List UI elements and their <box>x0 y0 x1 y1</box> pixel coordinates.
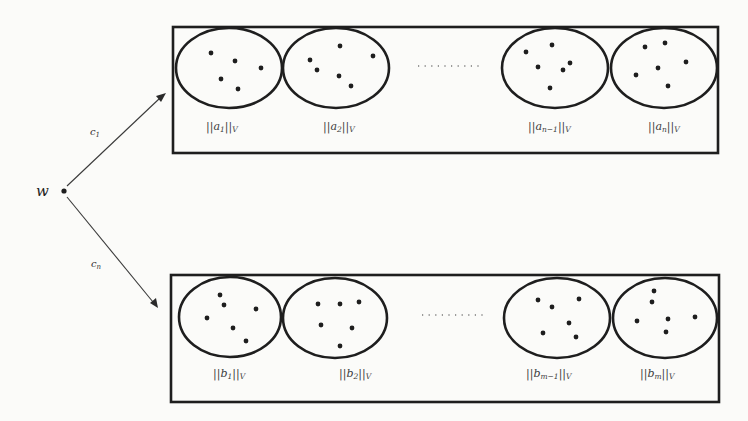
set-a1-circle <box>176 28 282 108</box>
set-b2-label: ||b2||V <box>339 367 373 381</box>
set-a-n-minus-1-label: ||an−1||V <box>528 120 572 134</box>
set-a1-label: ||a1||V <box>206 120 239 134</box>
top-box: ||a1||V ||a2||V ||an−1||V <box>173 27 718 153</box>
set-b-m-minus-1-label: ||bm−1||V <box>526 367 573 381</box>
set-b1: ||b1||V <box>179 277 281 381</box>
set-a-n-circle <box>611 28 717 108</box>
set-a1: ||a1||V <box>176 28 282 134</box>
set-b1-circle <box>179 277 281 357</box>
edge-c1-line <box>67 98 160 186</box>
set-a2-label: ||a2||V <box>323 120 356 134</box>
set-a2: ||a2||V <box>283 28 389 134</box>
source-point <box>61 188 66 193</box>
set-a-n: ||an||V <box>611 28 717 134</box>
edge-c1: c1 <box>67 93 166 186</box>
edge-c1-label: c1 <box>90 126 100 139</box>
set-a-n-minus-1-circle <box>502 28 608 108</box>
edge-cn: cn <box>67 197 158 308</box>
set-a-n-minus-1: ||an−1||V <box>502 28 608 134</box>
set-b2: ||b2||V <box>283 278 387 381</box>
set-b-m: ||bm||V <box>613 278 717 381</box>
top-box-frame <box>173 27 718 153</box>
edge-cn-label: cn <box>91 258 102 271</box>
sets-diagram: w c1 cn ||a1||V <box>0 0 748 421</box>
set-b-m-minus-1-circle <box>504 278 610 358</box>
set-b1-label: ||b1||V <box>213 367 247 381</box>
set-b-m-minus-1: ||bm−1||V <box>504 278 610 381</box>
bottom-box-frame <box>171 275 719 402</box>
source-label: w <box>36 182 49 200</box>
edge-cn-line <box>67 197 153 302</box>
bottom-box: ||b1||V ||b2||V ||bm−1||V <box>171 275 719 402</box>
set-b-m-circle <box>613 278 717 358</box>
set-b-m-label: ||bm||V <box>640 367 676 381</box>
set-a2-circle <box>283 28 389 108</box>
set-a-n-label: ||an||V <box>648 120 681 134</box>
source-node: w <box>36 182 67 200</box>
set-b2-circle <box>283 278 387 358</box>
